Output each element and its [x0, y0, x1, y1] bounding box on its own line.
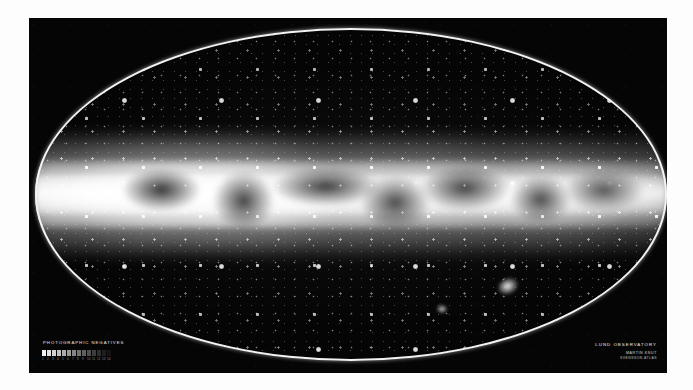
calibration-swatch: [77, 350, 81, 356]
calibration-swatch: [52, 350, 56, 356]
atlas-name: SVENSSON ATLAS: [595, 356, 657, 361]
calibration-swatch: [42, 350, 46, 356]
calibration-swatch: [82, 350, 86, 356]
observatory-credit-block: LUND OBSERVATORY MARTIN KNUT SVENSSON AT…: [595, 342, 657, 361]
observatory-name: LUND OBSERVATORY: [595, 342, 657, 349]
calibration-swatch: [72, 350, 76, 356]
calibration-swatch: [97, 350, 101, 356]
calibration-swatch: [47, 350, 51, 356]
photographic-negatives-label: PHOTOGRAPHIC NEGATIVES: [43, 340, 124, 347]
calibration-swatch: [87, 350, 91, 356]
calibration-swatch: [57, 350, 61, 356]
calibration-swatch: [102, 350, 106, 356]
calibration-swatch: [62, 350, 66, 356]
greyscale-calibration-strip: 1234567891011121314: [42, 350, 112, 361]
calibration-swatch: [107, 350, 111, 356]
photographic-plate: PHOTOGRAPHIC NEGATIVES 12345678910111213…: [29, 18, 667, 373]
photograph-page: PHOTOGRAPHIC NEGATIVES 12345678910111213…: [0, 0, 693, 390]
calibration-swatch: [67, 350, 71, 356]
calibration-swatches: [42, 350, 112, 356]
calibration-numbers: 1234567891011121314: [42, 357, 112, 361]
calibration-number: 14: [107, 357, 112, 361]
projection-ellipse-outline: [35, 28, 667, 361]
calibration-swatch: [92, 350, 96, 356]
